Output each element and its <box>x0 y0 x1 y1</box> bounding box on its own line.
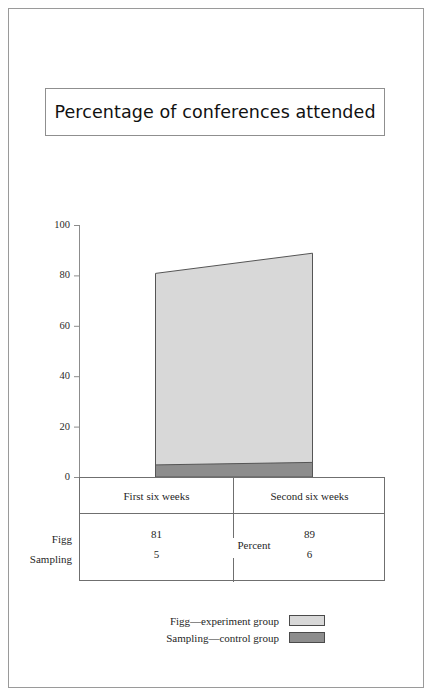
page: Percentage of conferences attended 100 8… <box>0 0 434 698</box>
cell-sampling-first: 5 <box>80 548 233 560</box>
y-tick-label-80: 80 <box>42 269 70 280</box>
unit-label-percent-text: Percent <box>233 539 276 551</box>
legend-item-figg: Figg—experiment group <box>120 612 325 629</box>
series-area-figg <box>156 253 313 477</box>
y-tick-label-0: 0 <box>42 471 70 482</box>
series-area-sampling <box>156 462 313 477</box>
legend-swatch-figg <box>289 615 325 626</box>
row-label-sampling: Sampling <box>0 553 72 565</box>
legend-label-figg: Figg—experiment group <box>170 615 279 627</box>
category-header-row: First six weeks Second six weeks <box>79 477 385 513</box>
area-chart-plot <box>0 0 434 698</box>
legend-label-sampling: Sampling—control group <box>166 632 279 644</box>
legend-item-sampling: Sampling—control group <box>120 629 325 646</box>
table-divider-lower <box>233 558 234 582</box>
y-tick-label-60: 60 <box>42 320 70 331</box>
data-table: 81 89 5 6 Percent <box>79 513 385 581</box>
chart-legend: Figg—experiment group Sampling—control g… <box>120 612 325 646</box>
y-tick-label-100: 100 <box>42 219 70 230</box>
cell-figg-first: 81 <box>80 528 233 540</box>
unit-label-percent: Percent <box>233 539 234 551</box>
category-label-first: First six weeks <box>80 478 233 514</box>
row-label-figg: Figg <box>0 533 72 545</box>
category-label-second: Second six weeks <box>233 478 386 514</box>
y-tick-label-40: 40 <box>42 370 70 381</box>
y-axis-ticks <box>74 226 80 478</box>
legend-swatch-sampling <box>289 632 325 643</box>
y-tick-label-20: 20 <box>42 421 70 432</box>
